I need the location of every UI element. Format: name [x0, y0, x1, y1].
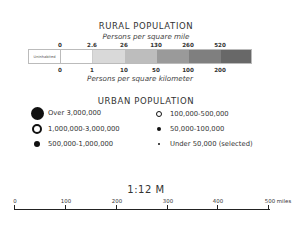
density-swatch-6 [221, 50, 251, 63]
mile-tick: 520 [214, 42, 226, 48]
rural-density-colorbar: Uninhabited [28, 49, 252, 64]
medium-filled-dot-icon [34, 141, 40, 147]
scale-tick-label: 300 [163, 198, 173, 204]
urban-legend-item: Under 50,000 (selected) [152, 139, 253, 149]
density-swatch-4 [157, 50, 189, 63]
density-swatch-5 [189, 50, 221, 63]
uninhabited-swatch: Uninhabited [29, 50, 61, 63]
density-swatch-1 [61, 50, 93, 63]
urban-legend-item: 1,000,000-3,000,000 [30, 123, 120, 135]
urban-legend-label: 500,000-1,000,000 [48, 140, 113, 148]
km-tick: 1 [90, 67, 94, 73]
density-swatch-3 [125, 50, 157, 63]
scale-tick-label: 200 [112, 198, 122, 204]
small-filled-dot-icon [157, 127, 162, 132]
rural-subtitle-miles: Persons per square mile [102, 32, 189, 41]
scale-tick-label: 100 [61, 198, 71, 204]
scale-tick-label: 500 miles [265, 198, 291, 204]
urban-legend-label: 50,000-100,000 [170, 125, 224, 133]
mile-tick: 260 [182, 42, 194, 48]
km-tick: 200 [214, 67, 226, 73]
scale-tick-label: 0 [13, 198, 16, 204]
rural-subtitle-km: Persons per square kilometer [87, 74, 193, 83]
km-tick: 50 [152, 67, 160, 73]
small-ring-icon [156, 111, 162, 117]
urban-legend-label: Under 50,000 (selected) [170, 140, 253, 148]
urban-legend-item: 500,000-1,000,000 [30, 139, 113, 149]
mile-tick: 130 [150, 42, 162, 48]
scale-tick-label: 400 [213, 198, 223, 204]
urban-legend-label: Over 3,000,000 [48, 109, 101, 117]
rural-population-title: RURAL POPULATION [99, 21, 194, 31]
large-ring-icon [32, 124, 42, 134]
km-tick: 100 [182, 67, 194, 73]
km-tick: 10 [120, 67, 128, 73]
scale-bar [14, 209, 270, 210]
urban-legend-label: 100,000-500,000 [170, 110, 229, 118]
density-swatch-2 [93, 50, 125, 63]
mile-tick: 2.6 [87, 42, 97, 48]
urban-legend-label: 1,000,000-3,000,000 [48, 125, 120, 133]
urban-legend-item: Over 3,000,000 [30, 106, 101, 120]
scale-ratio: 1:12 M [127, 184, 164, 195]
urban-legend-item: 50,000-100,000 [152, 124, 224, 134]
tiny-filled-dot-icon [158, 143, 161, 146]
urban-population-title: URBAN POPULATION [98, 96, 194, 106]
mile-tick: 0 [58, 42, 62, 48]
km-tick: 0 [58, 67, 62, 73]
urban-legend-item: 100,000-500,000 [152, 109, 229, 119]
large-filled-dot-icon [31, 107, 44, 120]
mile-tick: 26 [120, 42, 128, 48]
